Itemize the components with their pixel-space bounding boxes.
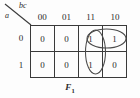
cell-a0-bc01: 0 bbox=[54, 26, 78, 51]
row-header-column: 0 1 bbox=[14, 25, 28, 78]
karnaugh-map-figure: bc a 00 01 11 10 0 1 0 0 1 1 0 0 1 0 F1 bbox=[0, 0, 140, 98]
row-header-0: 0 bbox=[14, 25, 28, 52]
cell-a0-bc11: 1 bbox=[78, 26, 102, 51]
col-variable-label: bc bbox=[19, 1, 27, 10]
cell-a1-bc11: 1 bbox=[78, 52, 102, 77]
row-header-1: 1 bbox=[14, 52, 28, 79]
figure-caption: F1 bbox=[0, 82, 140, 94]
cell-a0-bc10: 1 bbox=[102, 26, 126, 51]
column-header-row: 00 01 11 10 bbox=[30, 10, 127, 24]
cell-a1-bc01: 0 bbox=[54, 52, 78, 77]
column-header-01: 01 bbox=[54, 10, 78, 24]
column-header-00: 00 bbox=[30, 10, 54, 24]
column-header-10: 10 bbox=[103, 10, 127, 24]
caption-subscript: 1 bbox=[71, 87, 74, 94]
kmap-row-0: 0 0 1 1 bbox=[31, 26, 126, 51]
cell-a1-bc00: 0 bbox=[31, 52, 54, 77]
kmap-grid: 0 0 1 1 0 0 1 0 bbox=[30, 25, 127, 78]
cell-a1-bc10: 0 bbox=[102, 52, 126, 77]
kmap-row-1: 0 0 1 0 bbox=[31, 51, 126, 77]
kmap-corner-header: bc a bbox=[0, 0, 34, 26]
column-header-11: 11 bbox=[79, 10, 103, 24]
row-variable-label: a bbox=[5, 11, 9, 20]
cell-a0-bc00: 0 bbox=[31, 26, 54, 51]
